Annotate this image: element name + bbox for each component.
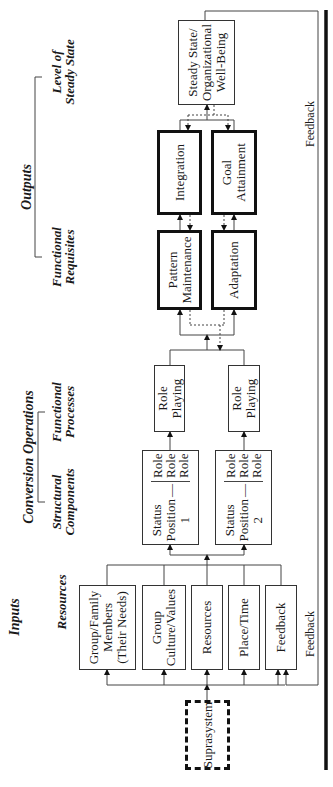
header-resources: Resources [55,562,68,642]
feedback-label-right: Feedback [303,101,318,147]
input-place-time: Place/Time [228,585,260,670]
header-outputs: Outputs [20,147,33,227]
status-position-1: StatusPosition1 — Role Role Role [142,450,199,545]
header-inputs: Inputs [8,577,21,657]
pattern-maintenance-box: PatternMaintenance [157,230,202,310]
integration-box: Integration [157,130,202,215]
role-playing-1: Role Playing [154,365,185,432]
steady-state-box: Steady State/OrganizationalWell-Being [178,20,235,105]
adaptation-box: Adaptation [211,230,257,310]
systems-diagram: Inputs Resources Conversion Operations S… [0,0,333,787]
input-feedback: Feedback [265,585,297,670]
header-functional-processes: Functional Processes [50,372,76,452]
feedback-label-left: Feedback [303,611,318,657]
header-level-of-steady-state: Level of Steady State [50,27,76,117]
header-functional-requisites: Functional Requisites [50,217,76,297]
header-conversion-operations: Conversion Operations [22,387,35,527]
input-group-culture-values: GroupCulture/Values [142,585,186,670]
header-structural-components: Structural Components [50,462,76,542]
role-playing-2: Role Playing [228,365,260,432]
suprasystem-box: Suprasystem [185,700,230,770]
status-position-2: StatusPosition2 — Role Role Role [215,450,272,545]
input-resources: Resources [191,585,223,670]
input-group-family-members: Group/FamilyMembers(Their Needs) [79,585,136,670]
goal-attainment-box: GoalAttainment [211,130,257,215]
